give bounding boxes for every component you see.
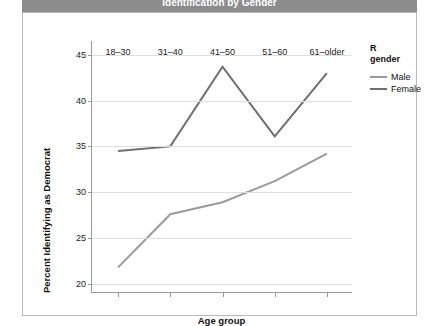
y-tick-mark <box>88 101 92 102</box>
y-tick-mark <box>88 238 92 239</box>
x-tick-mark <box>118 293 119 297</box>
legend-item[interactable]: Female <box>370 83 434 95</box>
legend-item-label: Male <box>391 71 411 83</box>
chart-window-title: Identification by Gender <box>22 0 417 12</box>
y-tick-label: 40 <box>60 96 86 106</box>
x-tick-mark <box>275 293 276 297</box>
y-gridline <box>92 284 352 285</box>
y-gridline <box>92 192 352 193</box>
y-tick-mark <box>88 146 92 147</box>
x-axis-title: Age group <box>91 315 352 326</box>
y-tick-mark <box>88 284 92 285</box>
y-tick-label: 30 <box>60 187 86 197</box>
y-axis-title: Percent Identifying as Democrat <box>41 148 52 293</box>
legend-title-line2: gender <box>370 54 434 65</box>
y-tick-label: 20 <box>60 279 86 289</box>
page-corner-artifact <box>0 292 22 326</box>
x-tick-label: 18–30 <box>106 47 131 57</box>
y-tick-label: 35 <box>60 141 86 151</box>
legend-item-label: Female <box>391 83 421 95</box>
y-tick-label: 45 <box>60 50 86 60</box>
legend-swatch-icon <box>370 76 387 78</box>
series-line <box>118 67 327 151</box>
legend-swatch-icon <box>370 88 387 90</box>
y-tick-mark <box>88 55 92 56</box>
plot-area: 20253035404518–3031–4041–5051–6061–older <box>91 41 352 293</box>
x-tick-mark <box>223 293 224 297</box>
x-tick-label: 61–older <box>309 47 344 57</box>
legend-items: MaleFemale <box>370 71 434 95</box>
x-tick-label: 41–50 <box>210 47 235 57</box>
y-gridline <box>92 238 352 239</box>
series-line <box>118 154 327 268</box>
legend-title-line1: R <box>370 43 434 54</box>
y-gridline <box>92 146 352 147</box>
series-layer <box>92 41 353 293</box>
x-tick-mark <box>170 293 171 297</box>
x-tick-label: 31–40 <box>158 47 183 57</box>
y-tick-mark <box>88 192 92 193</box>
legend-item[interactable]: Male <box>370 71 434 83</box>
x-tick-label: 51–60 <box>262 47 287 57</box>
x-tick-mark <box>327 293 328 297</box>
chart-page: Identification by Gender Percent Identif… <box>0 0 438 326</box>
y-tick-label: 25 <box>60 233 86 243</box>
chart-legend: R gender MaleFemale <box>370 43 434 95</box>
y-gridline <box>92 101 352 102</box>
chart-frame: Percent Identifying as Democrat Age grou… <box>22 12 417 316</box>
